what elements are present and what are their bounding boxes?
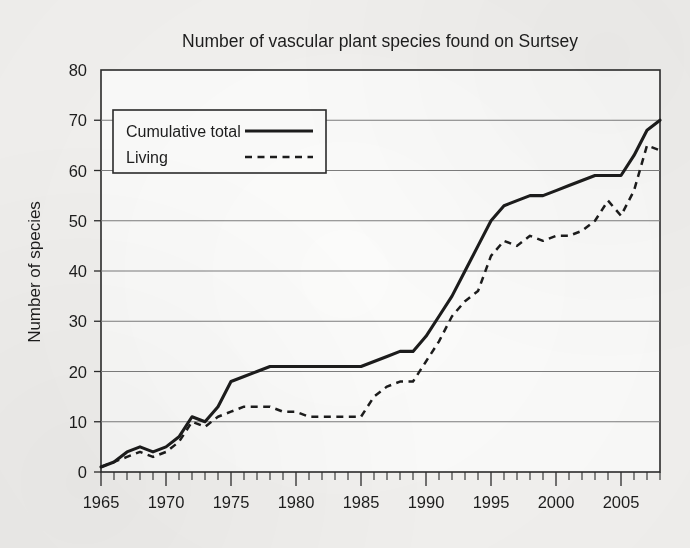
x-tick-label-1985: 1985 (343, 493, 380, 511)
y-tick-label-10: 10 (69, 413, 87, 431)
y-tick-label-80: 80 (69, 61, 87, 79)
x-tick-marks (101, 472, 660, 486)
y-tick-label-30: 30 (69, 312, 87, 330)
y-tick-label-50: 50 (69, 212, 87, 230)
x-tick-label-1980: 1980 (278, 493, 315, 511)
legend-label-cumulative-total: Cumulative total (126, 123, 241, 140)
y-tick-label-60: 60 (69, 162, 87, 180)
y-tick-label-20: 20 (69, 363, 87, 381)
chart-figure: Number of vascular plant species found o… (0, 0, 690, 548)
x-tick-labels: 196519701975198019851990199520002005 (83, 493, 640, 511)
y-tick-label-40: 40 (69, 262, 87, 280)
x-tick-label-1995: 1995 (473, 493, 510, 511)
x-tick-label-1990: 1990 (408, 493, 445, 511)
y-tick-label-70: 70 (69, 111, 87, 129)
x-tick-label-1970: 1970 (148, 493, 185, 511)
y-tick-label-0: 0 (78, 463, 87, 481)
x-tick-label-2000: 2000 (538, 493, 575, 511)
y-tick-labels: 01020304050607080 (69, 61, 87, 481)
x-tick-label-2005: 2005 (603, 493, 640, 511)
y-tick-marks (94, 120, 101, 472)
x-tick-label-1965: 1965 (83, 493, 120, 511)
legend-label-living: Living (126, 149, 168, 166)
chart-title: Number of vascular plant species found o… (182, 31, 578, 51)
y-axis-title: Number of species (25, 201, 44, 343)
x-tick-label-1975: 1975 (213, 493, 250, 511)
legend: Cumulative total Living (113, 110, 326, 173)
